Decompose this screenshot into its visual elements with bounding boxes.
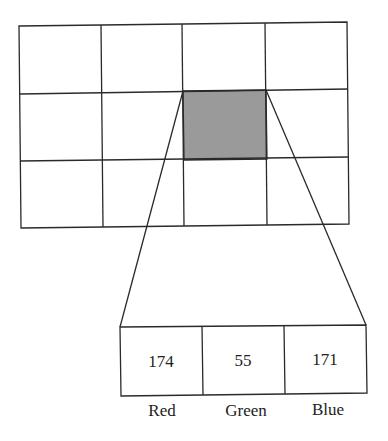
red-value: 174	[148, 352, 174, 371]
zoom-line-left	[120, 91, 183, 327]
red-label: Red	[148, 401, 176, 420]
green-label: Green	[225, 401, 267, 420]
blue-value: 171	[312, 350, 338, 369]
rgb-divider	[284, 326, 285, 394]
grid-col-line	[101, 25, 103, 227]
zoom-line-right	[266, 90, 366, 325]
blue-label: Blue	[312, 400, 344, 419]
highlighted-pixel	[183, 90, 267, 160]
pixel-rgb-diagram: 174 55 171 Red Green Blue	[0, 0, 388, 441]
green-value: 55	[235, 351, 252, 370]
rgb-divider	[202, 326, 203, 395]
